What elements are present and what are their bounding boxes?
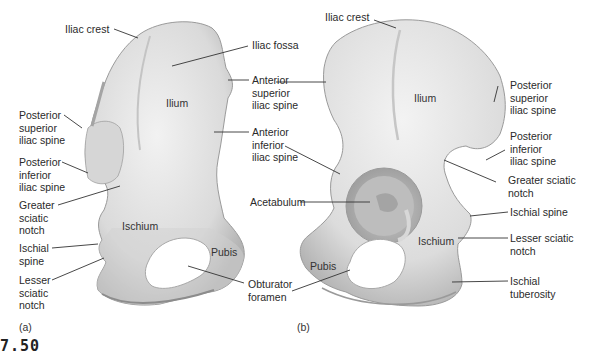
callout-anterior-inferior-iliac-spine: Anterior inferior iliac spine [252,126,298,164]
callout-posterior-superior-iliac-spine-a: Posterior superior iliac spine [19,109,65,147]
panel-label-b: (b) [297,321,310,333]
callout-ischial-spine-a: Ischial spine [19,242,49,267]
callout-lesser-sciatic-notch-b: Lesser sciatic notch [510,232,574,257]
callout-lesser-sciatic-notch-a: Lesser sciatic notch [19,274,51,312]
region-ischium-a: Ischium [122,220,158,232]
callout-posterior-inferior-iliac-spine-b: Posterior inferior iliac spine [510,130,556,168]
callout-posterior-superior-iliac-spine-b: Posterior superior iliac spine [510,79,556,117]
callout-iliac-fossa: Iliac fossa [252,39,299,52]
callout-greater-sciatic-notch-b: Greater sciatic notch [508,174,576,199]
bone-a [85,22,244,305]
region-ilium-b: Ilium [414,92,436,104]
region-ilium-a: Ilium [166,97,188,109]
callout-posterior-inferior-iliac-spine-a: Posterior inferior iliac spine [19,156,65,194]
callout-ischial-spine-b: Ischial spine [510,206,568,219]
region-ischium-b: Ischium [418,235,454,247]
figure-number: 7.50 [0,337,40,355]
panel-label-a: (a) [19,321,32,333]
callout-acetabulum: Acetabulum [250,196,305,209]
region-pubis-b: Pubis [310,260,336,272]
callout-iliac-crest-a: Iliac crest [65,23,109,36]
callout-iliac-crest-b: Iliac crest [325,11,369,24]
callout-anterior-superior-iliac-spine: Anterior superior iliac spine [252,74,298,112]
region-pubis-a: Pubis [211,246,237,258]
callout-ischial-tuberosity: Ischial tuberosity [510,275,556,300]
callout-greater-sciatic-notch-a: Greater sciatic notch [19,199,55,237]
callout-obturator-foramen: Obturator foramen [248,278,292,303]
